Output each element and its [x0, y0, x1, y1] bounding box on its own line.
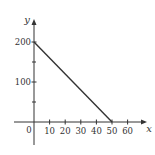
labels: 1020304050601002000xy — [15, 14, 152, 136]
x-tick-label: 20 — [60, 126, 71, 136]
y-axis-label: y — [23, 14, 30, 25]
chart-svg: 1020304050601002000xy — [0, 0, 155, 155]
x-tick-label: 30 — [75, 126, 86, 136]
x-tick-label: 50 — [107, 126, 118, 136]
origin-label: 0 — [26, 125, 31, 135]
y-axis-arrow-icon — [32, 19, 37, 25]
y-tick-label: 200 — [15, 37, 31, 47]
x-axis-label: x — [146, 123, 152, 134]
y-tick-label: 100 — [15, 77, 31, 87]
data-line — [34, 42, 112, 122]
x-tick-label: 10 — [44, 126, 55, 136]
chart: 1020304050601002000xy — [0, 0, 155, 155]
x-tick-label: 40 — [91, 126, 102, 136]
data-series — [34, 42, 112, 122]
x-tick-label: 60 — [122, 126, 133, 136]
